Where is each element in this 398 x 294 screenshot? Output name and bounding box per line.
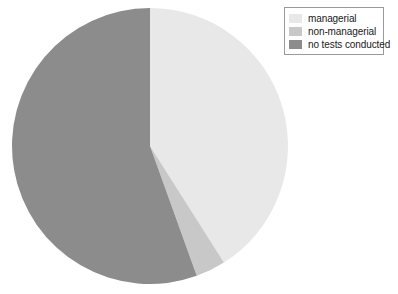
legend-label-no-tests-conducted: no tests conducted — [308, 39, 390, 50]
chart-legend: managerial non-managerial no tests condu… — [284, 7, 384, 55]
legend-item-managerial[interactable]: managerial — [289, 12, 378, 24]
legend-swatch-no-tests-conducted — [289, 40, 302, 49]
legend-swatch-non-managerial — [289, 27, 302, 36]
pie-slices — [12, 8, 288, 284]
legend-item-non-managerial[interactable]: non-managerial — [289, 25, 378, 37]
legend-label-non-managerial: non-managerial — [308, 26, 376, 37]
legend-swatch-managerial — [289, 14, 302, 23]
legend-label-managerial: managerial — [308, 13, 356, 24]
legend-item-no-tests-conducted[interactable]: no tests conducted — [289, 38, 378, 50]
